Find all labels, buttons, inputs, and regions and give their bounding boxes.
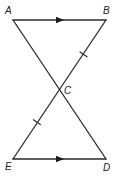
point-label-a: A bbox=[4, 5, 12, 16]
point-label-e: E bbox=[5, 161, 12, 172]
point-label-b: B bbox=[103, 5, 110, 16]
point-label-c: C bbox=[64, 85, 72, 96]
parallel-arrow-icon-ed bbox=[56, 156, 64, 162]
parallel-arrow-icon-ab bbox=[56, 17, 64, 23]
geometry-diagram: A B C E D bbox=[0, 0, 118, 178]
point-label-d: D bbox=[103, 162, 110, 173]
